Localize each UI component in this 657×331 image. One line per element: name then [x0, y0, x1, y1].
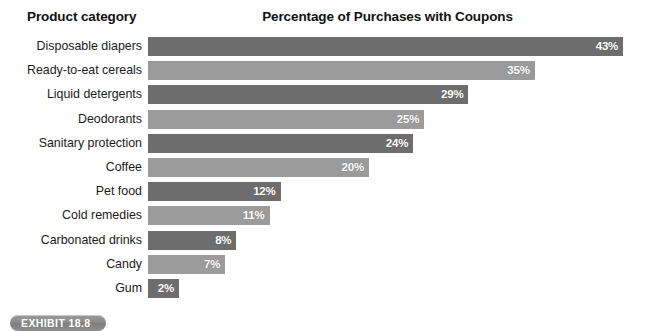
bar-row: Ready-to-eat cereals35%: [0, 60, 657, 80]
bar-row: Candy7%: [0, 254, 657, 274]
category-label: Liquid detergents: [0, 84, 142, 104]
plot-area: Disposable diapers43%Ready-to-eat cereal…: [0, 36, 657, 302]
bar: 12%: [148, 182, 281, 201]
coupon-usage-bar-chart: Product category Percentage of Purchases…: [0, 0, 657, 331]
bar-value-label: 24%: [386, 134, 408, 153]
category-label: Disposable diapers: [0, 36, 142, 56]
exhibit-badge: EXHIBIT 18.8: [10, 315, 106, 331]
bar-value-label: 29%: [441, 85, 463, 104]
bar-value-label: 2%: [158, 279, 174, 298]
bar-value-label: 7%: [204, 255, 220, 274]
bar-value-label: 25%: [397, 110, 419, 129]
category-label: Deodorants: [0, 109, 142, 129]
bar-row: Disposable diapers43%: [0, 36, 657, 56]
bar: 8%: [148, 231, 236, 250]
category-label: Candy: [0, 254, 142, 274]
page-title: Percentage of Purchases with Coupons: [0, 9, 657, 24]
bar-value-label: 12%: [253, 182, 275, 201]
bar-row: Carbonated drinks8%: [0, 230, 657, 250]
bar-row: Deodorants25%: [0, 109, 657, 129]
category-label: Pet food: [0, 181, 142, 201]
bar: 29%: [148, 85, 468, 104]
bar-value-label: 8%: [215, 231, 231, 250]
bar-row: Coffee20%: [0, 157, 657, 177]
exhibit-badge-label: EXHIBIT 18.8: [10, 315, 106, 331]
bar-value-label: 20%: [342, 158, 364, 177]
category-label: Sanitary protection: [0, 133, 142, 153]
category-label: Coffee: [0, 157, 142, 177]
bar: 24%: [148, 134, 413, 153]
bar: 43%: [148, 37, 623, 56]
bar-value-label: 43%: [596, 37, 618, 56]
bar: 35%: [148, 61, 535, 80]
bar: 11%: [148, 206, 270, 225]
bar: 2%: [148, 279, 179, 298]
category-label: Cold remedies: [0, 205, 142, 225]
bar-row: Sanitary protection24%: [0, 133, 657, 153]
bar-row: Pet food12%: [0, 181, 657, 201]
bar: 7%: [148, 255, 225, 274]
category-label: Carbonated drinks: [0, 230, 142, 250]
bar-row: Cold remedies11%: [0, 205, 657, 225]
bar-value-label: 35%: [507, 61, 529, 80]
bar-value-label: 11%: [243, 206, 265, 225]
chart-header: Product category Percentage of Purchases…: [0, 9, 657, 29]
bar: 25%: [148, 110, 424, 129]
bar: 20%: [148, 158, 369, 177]
category-label: Gum: [0, 278, 142, 298]
bar-row: Liquid detergents29%: [0, 84, 657, 104]
category-label: Ready-to-eat cereals: [0, 60, 142, 80]
bar-row: Gum2%: [0, 278, 657, 298]
